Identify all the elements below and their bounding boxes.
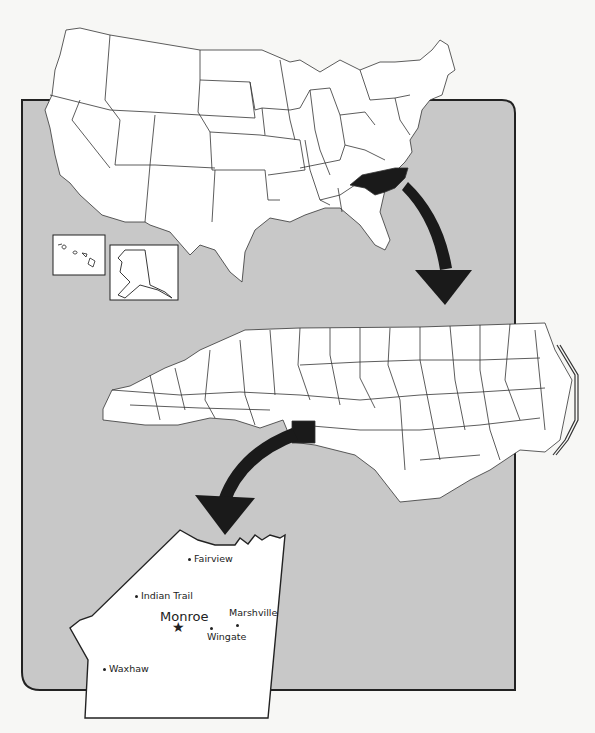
place-waxhaw: Waxhaw — [103, 663, 149, 674]
place-wingate: Wingate — [207, 631, 246, 642]
town-dot-icon — [188, 558, 191, 561]
place-marshville: Marshville — [229, 607, 277, 618]
town-dot-icon — [135, 595, 138, 598]
town-dot-icon — [103, 668, 106, 671]
star-icon: ★ — [172, 619, 185, 635]
place-fairview: Fairview — [188, 553, 233, 564]
alaska-inset — [110, 245, 178, 300]
locator-map: Fairview Indian Trail Monroe ★ Marshvill… — [0, 0, 595, 733]
hawaii-inset — [53, 235, 105, 275]
map-graphic — [0, 0, 595, 733]
marshville-dot-icon — [236, 619, 242, 630]
place-indian-trail: Indian Trail — [135, 590, 193, 601]
